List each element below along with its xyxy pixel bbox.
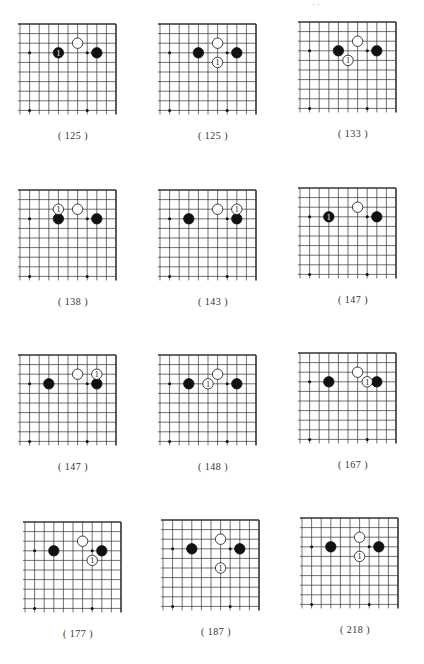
black-stone bbox=[92, 214, 102, 224]
star-point bbox=[368, 545, 371, 548]
star-point bbox=[28, 382, 31, 385]
black-stone bbox=[372, 46, 382, 56]
go-diagram: 1( 133 ) bbox=[298, 20, 418, 170]
black-stone bbox=[92, 379, 102, 389]
star-point bbox=[86, 109, 89, 112]
star-point bbox=[28, 217, 31, 220]
diagram-caption: ( 125 ) bbox=[158, 130, 268, 141]
star-point bbox=[86, 51, 89, 54]
go-board: 1 bbox=[158, 22, 262, 120]
star-point bbox=[366, 107, 369, 110]
black-stone-move-1: 1 bbox=[53, 48, 63, 58]
diagram-caption: ( 147 ) bbox=[18, 461, 128, 472]
go-diagram: 1( 138 ) bbox=[18, 188, 138, 338]
star-point bbox=[86, 217, 89, 220]
svg-text:1: 1 bbox=[365, 378, 369, 387]
star-point bbox=[28, 109, 31, 112]
star-point bbox=[86, 382, 89, 385]
black-stone-move-1: 1 bbox=[324, 212, 334, 222]
go-diagram: 1( 143 ) bbox=[158, 188, 278, 338]
go-board: 1 bbox=[18, 188, 122, 286]
black-stone bbox=[184, 214, 194, 224]
go-board: 1 bbox=[23, 520, 127, 618]
white-stone bbox=[72, 38, 82, 48]
diagram-caption: ( 148 ) bbox=[158, 461, 268, 472]
white-stone-move-1: 1 bbox=[362, 377, 372, 387]
go-board: 1 bbox=[298, 186, 402, 284]
star-point bbox=[28, 440, 31, 443]
go-board: 1 bbox=[161, 518, 265, 616]
go-diagram: 1( 187 ) bbox=[161, 518, 281, 664]
black-stone bbox=[372, 212, 382, 222]
go-board: 1 bbox=[298, 351, 402, 449]
white-stone-move-1: 1 bbox=[87, 555, 97, 565]
go-board: 1 bbox=[158, 353, 262, 451]
white-stone bbox=[212, 204, 222, 214]
star-point bbox=[91, 549, 94, 552]
white-stone-move-1: 1 bbox=[203, 379, 213, 389]
white-stone-move-1: 1 bbox=[343, 55, 353, 65]
black-stone bbox=[374, 542, 384, 552]
white-stone-move-1: 1 bbox=[354, 551, 364, 561]
star-point bbox=[28, 275, 31, 278]
white-stone bbox=[212, 38, 222, 48]
black-stone bbox=[92, 48, 102, 58]
star-point bbox=[33, 607, 36, 610]
svg-text:1: 1 bbox=[56, 205, 60, 214]
diagram-caption: ( 167 ) bbox=[298, 459, 408, 470]
black-stone bbox=[333, 46, 343, 56]
star-point bbox=[368, 603, 371, 606]
star-point bbox=[308, 107, 311, 110]
diagram-caption: ( 187 ) bbox=[161, 626, 271, 637]
star-point bbox=[366, 215, 369, 218]
go-diagram: 1( 147 ) bbox=[18, 353, 138, 503]
white-stone bbox=[215, 534, 225, 544]
diagram-caption: ( 125 ) bbox=[18, 130, 128, 141]
white-stone-move-1: 1 bbox=[232, 204, 242, 214]
black-stone bbox=[235, 544, 245, 554]
white-stone bbox=[212, 369, 222, 379]
svg-text:1: 1 bbox=[90, 556, 94, 565]
black-stone bbox=[193, 48, 203, 58]
go-board: 1 bbox=[158, 188, 262, 286]
diagram-caption: ( 218 ) bbox=[300, 624, 410, 635]
black-stone bbox=[44, 379, 54, 389]
black-stone bbox=[232, 379, 242, 389]
star-point bbox=[171, 605, 174, 608]
white-stone bbox=[354, 532, 364, 542]
go-board: 1 bbox=[298, 20, 402, 118]
star-point bbox=[308, 273, 311, 276]
white-stone-move-1: 1 bbox=[92, 369, 102, 379]
go-diagram: 1( 218 ) bbox=[300, 516, 420, 664]
go-board: 1 bbox=[18, 353, 122, 451]
star-point bbox=[168, 109, 171, 112]
star-point bbox=[168, 217, 171, 220]
diagram-caption: ( 138 ) bbox=[18, 296, 128, 307]
star-point bbox=[226, 217, 229, 220]
star-point bbox=[171, 547, 174, 550]
svg-text:1: 1 bbox=[327, 213, 331, 222]
white-stone bbox=[352, 202, 362, 212]
go-diagram: 1( 177 ) bbox=[23, 520, 143, 664]
go-diagram: 1( 125 ) bbox=[158, 22, 278, 172]
star-point bbox=[226, 440, 229, 443]
go-board: 1 bbox=[300, 516, 404, 614]
black-stone bbox=[372, 377, 382, 387]
svg-text:1: 1 bbox=[219, 564, 223, 573]
diagram-caption: ( 177 ) bbox=[23, 628, 133, 639]
svg-text:1: 1 bbox=[358, 552, 362, 561]
star-point bbox=[28, 51, 31, 54]
page-header-fragment: · · bbox=[312, 0, 319, 9]
star-point bbox=[226, 382, 229, 385]
star-point bbox=[310, 603, 313, 606]
black-stone bbox=[326, 542, 336, 552]
star-point bbox=[226, 275, 229, 278]
star-point bbox=[226, 109, 229, 112]
black-stone bbox=[232, 48, 242, 58]
black-stone bbox=[97, 546, 107, 556]
svg-text:1: 1 bbox=[216, 58, 220, 67]
star-point bbox=[168, 51, 171, 54]
star-point bbox=[308, 49, 311, 52]
go-diagram: 1( 125 ) bbox=[18, 22, 138, 172]
white-stone-move-1: 1 bbox=[212, 57, 222, 67]
